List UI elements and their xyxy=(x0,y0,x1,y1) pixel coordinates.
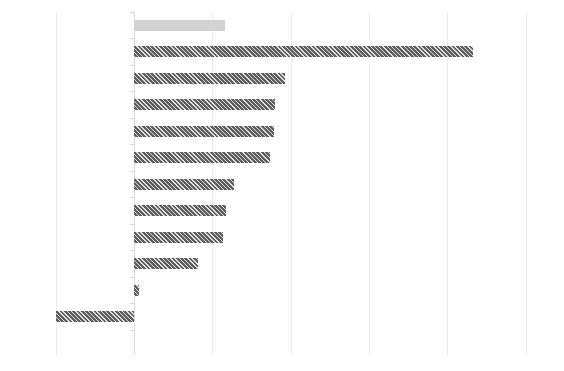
bar xyxy=(134,258,198,269)
y-axis-tick xyxy=(130,118,134,119)
bar xyxy=(134,232,223,243)
bar xyxy=(134,99,275,110)
y-axis-tick xyxy=(130,224,134,225)
y-axis-tick xyxy=(130,171,134,172)
bar xyxy=(134,285,139,296)
bar xyxy=(134,179,234,190)
y-axis-tick xyxy=(130,65,134,66)
bar-chart xyxy=(0,0,564,371)
y-axis-tick xyxy=(130,38,134,39)
plot-area xyxy=(0,0,564,371)
bar xyxy=(56,311,134,322)
bar xyxy=(134,126,274,137)
y-axis-tick xyxy=(130,330,134,331)
bar xyxy=(134,205,226,216)
gridline xyxy=(526,12,527,355)
y-axis-tick xyxy=(130,144,134,145)
gridline xyxy=(56,12,57,355)
bar xyxy=(134,152,270,163)
y-axis-tick xyxy=(130,250,134,251)
bar xyxy=(134,20,225,31)
y-axis-tick xyxy=(130,12,134,13)
y-axis-tick xyxy=(130,197,134,198)
y-axis-tick xyxy=(130,91,134,92)
y-axis-tick xyxy=(130,277,134,278)
y-axis-tick xyxy=(130,303,134,304)
bar xyxy=(134,46,473,57)
gridline xyxy=(447,12,448,355)
gridline xyxy=(369,12,370,355)
bar xyxy=(134,73,285,84)
gridline xyxy=(291,12,292,355)
